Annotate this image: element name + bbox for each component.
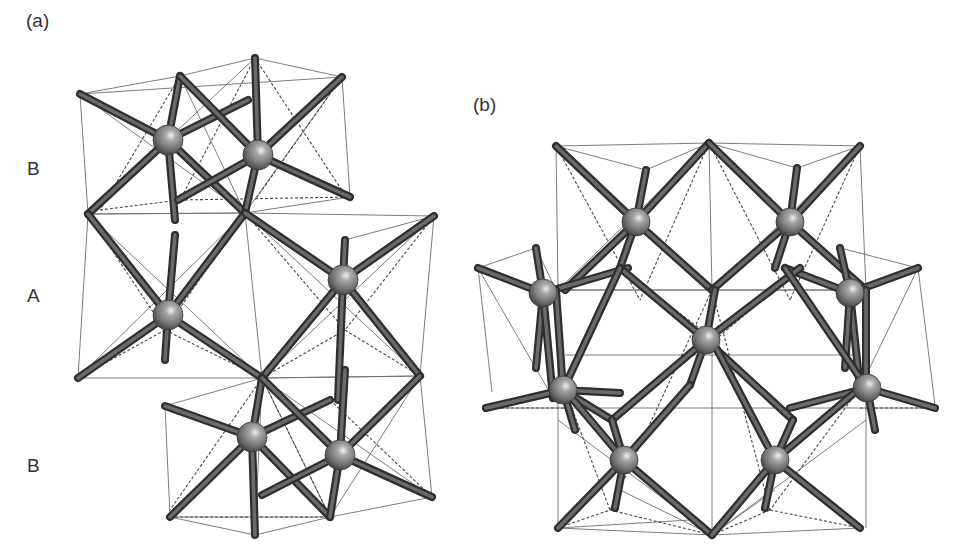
hidden-polyhedron-edge [100,200,180,210]
panel-a-structure [78,58,434,535]
crystal-structure-figure: (a) (b) B A B [0,0,953,554]
polyhedron-edge [255,517,330,535]
hidden-polyhedron-edge [262,330,345,378]
atom [328,265,358,295]
bond [340,376,420,455]
atom [549,376,577,404]
polyhedron-edge [709,143,712,290]
polyhedron-edge [556,146,558,290]
bond [624,460,712,535]
atom [853,374,881,402]
atom [237,422,267,452]
atom [610,446,638,474]
bond [170,437,252,517]
hidden-polyhedron-edge [345,330,420,376]
panel-a-label: (a) [26,10,49,32]
bond [343,280,420,376]
panel-b-structure [478,143,935,535]
bond [88,214,168,315]
atom [529,279,557,307]
hidden-polyhedron-edge [610,290,712,510]
polyhedron-edge [80,94,88,214]
polyhedron-edge [860,146,866,290]
polyhedron-edge [478,248,536,268]
bond [556,146,636,222]
polyhedron-edge [80,76,180,94]
polyhedron-edge [165,378,262,406]
layer-label-b-bottom: B [27,455,40,477]
polyhedron-edge [712,528,860,535]
polyhedron-edge [245,197,350,213]
polyhedron-edge [342,77,350,197]
polyhedron-edge [478,268,492,392]
atom [692,326,720,354]
bond [262,378,340,455]
layer-label-a: A [27,285,40,307]
polyhedron-edge [88,213,245,214]
layer-label-b-top: B [27,158,40,180]
polyhedron-edge [80,77,342,94]
bond [636,222,712,290]
atom [153,300,183,330]
bond [180,76,258,155]
bond [262,280,343,378]
bond [343,216,434,280]
hidden-polyhedron-edge [180,197,350,200]
atom [153,125,183,155]
polyhedron-edge [330,497,432,517]
polyhedron-edge [255,58,342,77]
polyhedron-edge [165,406,170,517]
polyhedron-edge [78,214,88,378]
polyhedron-edge [245,213,262,378]
bond [775,460,860,528]
atom [622,208,650,236]
polyhedron-edge [420,216,434,376]
polyhedron-edge [180,58,255,76]
atom [761,446,789,474]
bond [168,315,262,378]
polyhedron-edge [556,143,709,146]
bond [78,315,168,378]
polyhedron-edge [245,213,434,216]
polyhedron-edge [840,248,918,268]
polyhedron-edge [170,517,255,535]
atom [243,140,273,170]
atom [325,440,355,470]
atom [776,208,804,236]
bond [790,146,860,222]
bond [258,77,342,155]
panel-b-label: (b) [473,94,496,116]
bond [620,268,706,340]
hidden-polyhedron-edge [255,77,342,200]
polyhedron-edge [918,268,935,405]
structure-drawing [0,0,953,554]
bond [168,213,245,315]
polyhedron-edge [420,376,432,497]
atom [836,279,864,307]
polyhedron-edge [709,143,860,146]
